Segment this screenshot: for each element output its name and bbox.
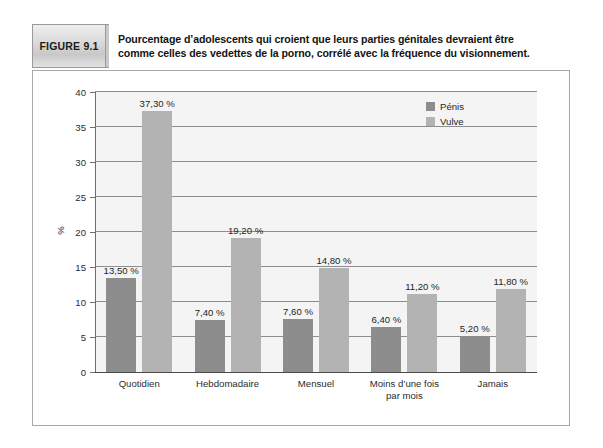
figure-caption: Pourcentage d’adolescents qui croient qu… <box>109 24 570 68</box>
figure-number-label: FIGURE 9.1 <box>39 40 98 52</box>
chart-frame <box>32 70 570 426</box>
figure-caption-line-2: comme celles des vedettes de la porno, c… <box>118 46 570 61</box>
figure-number-badge: FIGURE 9.1 <box>32 24 106 68</box>
figure-caption-line-1: Pourcentage d’adolescents qui croient qu… <box>118 32 570 47</box>
figure-9-1: FIGURE 9.1 Pourcentage d’adolescents qui… <box>0 0 603 448</box>
figure-header: FIGURE 9.1 Pourcentage d’adolescents qui… <box>32 24 570 68</box>
